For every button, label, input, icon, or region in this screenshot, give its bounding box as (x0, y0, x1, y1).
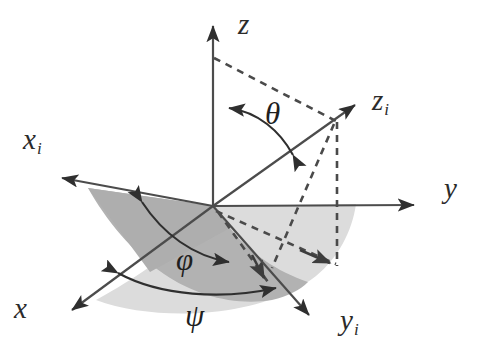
axis-label-yi-subscript: i (354, 320, 359, 339)
diagram-canvas (0, 0, 479, 357)
axis-label-zi-subscript: i (384, 100, 389, 119)
axis-label-y-text: y (444, 172, 457, 204)
axis-y (213, 205, 414, 206)
euler-angle-diagram: z y x zi xi yi θ φ ψ (0, 0, 479, 357)
axis-zi (213, 105, 355, 206)
axis-label-xi: xi (23, 125, 42, 157)
theta-arc (229, 108, 293, 155)
axis-label-yi: yi (340, 306, 359, 338)
axis-label-zi-text: z (372, 84, 383, 116)
angle-label-phi: φ (176, 244, 193, 275)
axis-label-x: x (14, 294, 27, 323)
theta-arc-path (229, 108, 293, 155)
angle-label-psi: ψ (185, 300, 204, 331)
axis-label-z: z (238, 10, 249, 39)
axis-label-yi-text: y (340, 304, 353, 336)
angle-label-theta: θ (265, 98, 280, 129)
axis-label-x-text: x (14, 292, 27, 324)
axis-label-y: y (444, 174, 457, 203)
axis-label-zi: zi (372, 86, 389, 118)
axis-label-xi-text: x (23, 123, 36, 155)
axis-label-xi-subscript: i (37, 139, 42, 158)
axis-label-z-text: z (238, 8, 249, 40)
